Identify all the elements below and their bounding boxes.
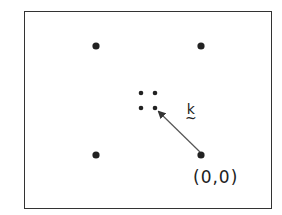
lattice-point	[92, 42, 99, 49]
satellite-points	[139, 91, 158, 111]
tilde-decoration: ~	[185, 115, 197, 121]
lattice-point	[92, 151, 99, 158]
lattice-point	[197, 42, 204, 49]
satellite-point	[153, 106, 158, 111]
satellite-point	[153, 91, 158, 96]
satellite-point	[139, 91, 144, 96]
lattice-point	[197, 151, 204, 158]
k-vector-label: k ~	[185, 103, 197, 121]
lattice-diagram	[0, 0, 282, 215]
satellite-point	[139, 106, 144, 111]
origin-label: (0,0)	[193, 167, 238, 187]
